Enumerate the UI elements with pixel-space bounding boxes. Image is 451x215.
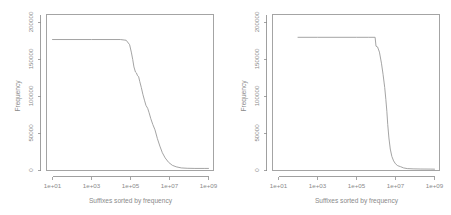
y-tick-label: 100000 (253, 85, 260, 106)
y-axis-title: Frequency (14, 80, 22, 112)
y-axis-title: Frequency (240, 80, 248, 112)
y-tick-label: 150000 (27, 48, 34, 69)
chart-panel-left: 0 50000 100000 150000 200000 Frequency 1… (0, 0, 225, 215)
plot-frame-left (47, 15, 214, 171)
x-axis-right: 1e+01 1e+03 1e+05 1e+07 1e+09 Suffixes s… (270, 177, 444, 206)
x-tick-label: 1e+01 (270, 182, 288, 189)
y-tick-label: 100000 (27, 85, 34, 106)
x-tick-label: 1e+07 (387, 182, 405, 189)
data-line-left (53, 40, 209, 169)
chart-panel-right: 0 50000 100000 150000 200000 Frequency 1… (226, 0, 451, 215)
x-tick-label: 1e+03 (309, 182, 327, 189)
x-tick-label: 1e+07 (161, 182, 179, 189)
y-tick-label: 200000 (27, 11, 34, 32)
figure-two-panel-line-charts: 0 50000 100000 150000 200000 Frequency 1… (0, 0, 451, 215)
y-tick-label: 150000 (253, 48, 260, 69)
x-axis-title: Suffixes sorted by frequency (89, 197, 173, 205)
x-axis-left: 1e+01 1e+03 1e+05 1e+07 1e+09 Suffixes s… (44, 177, 218, 206)
plot-frame-right (273, 15, 440, 171)
y-tick-label: 200000 (253, 11, 260, 32)
x-tick-label: 1e+09 (200, 182, 218, 189)
y-tick-label: 0 (253, 168, 260, 172)
x-axis-title: Suffixes sorted by frequency (315, 197, 399, 205)
y-tick-label: 50000 (27, 124, 34, 142)
y-tick-label: 50000 (253, 124, 260, 142)
chart-svg-right: 0 50000 100000 150000 200000 Frequency 1… (226, 0, 451, 215)
x-tick-label: 1e+03 (83, 182, 101, 189)
chart-svg-left: 0 50000 100000 150000 200000 Frequency 1… (0, 0, 225, 215)
y-axis-right: 0 50000 100000 150000 200000 Frequency (240, 11, 267, 172)
data-line-right (298, 37, 435, 169)
x-tick-label: 1e+05 (348, 182, 366, 189)
y-axis-left: 0 50000 100000 150000 200000 Frequency (14, 11, 41, 172)
y-tick-label: 0 (27, 168, 34, 172)
x-tick-label: 1e+05 (122, 182, 140, 189)
x-tick-label: 1e+09 (426, 182, 444, 189)
x-tick-label: 1e+01 (44, 182, 62, 189)
